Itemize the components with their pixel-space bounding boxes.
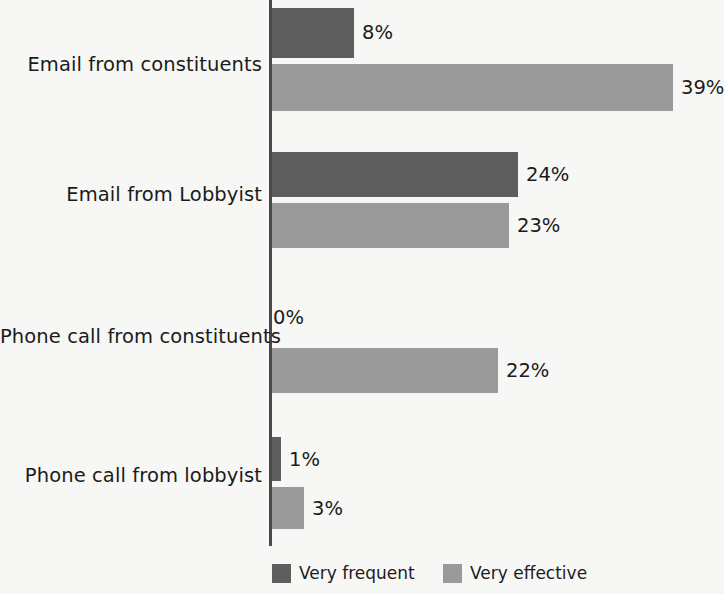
bar-value-label: 0%: [273, 308, 304, 328]
legend-swatch-icon: [272, 564, 291, 583]
bar-value-label: 22%: [506, 361, 549, 381]
category-label: Email from Lobbyist: [0, 184, 262, 206]
plot-area: Email from constituents 8% 39% Email fro…: [0, 0, 719, 552]
category-group: Email from constituents 8% 39%: [0, 0, 719, 130]
bar-value-label: 24%: [526, 165, 569, 185]
bar-very-effective[interactable]: [272, 203, 509, 248]
chart-legend: Very frequent Very effective: [0, 564, 719, 594]
category-label: Phone call from constituents: [0, 326, 262, 348]
bar-very-effective[interactable]: [272, 487, 304, 529]
bar-very-effective[interactable]: [272, 348, 498, 393]
bar-very-effective[interactable]: [272, 64, 673, 111]
bar-value-label: 8%: [362, 23, 393, 43]
category-group: Phone call from constituents 0% 22%: [0, 280, 719, 410]
bar-very-frequent[interactable]: [272, 8, 354, 58]
bar-value-label: 39%: [681, 78, 724, 98]
category-label: Phone call from lobbyist: [0, 465, 262, 487]
bar-value-label: 23%: [517, 216, 560, 236]
category-group: Phone call from lobbyist 1% 3%: [0, 425, 719, 550]
bar-very-frequent[interactable]: [272, 152, 518, 197]
category-group: Email from Lobbyist 24% 23%: [0, 140, 719, 270]
bar-very-frequent[interactable]: [272, 437, 281, 481]
bar-value-label: 1%: [289, 450, 320, 470]
category-label: Email from constituents: [0, 54, 262, 76]
legend-label: Very effective: [470, 564, 587, 583]
legend-item-very-frequent[interactable]: Very frequent: [272, 564, 415, 583]
bar-value-label: 3%: [312, 499, 343, 519]
legend-item-very-effective[interactable]: Very effective: [443, 564, 587, 583]
legend-swatch-icon: [443, 564, 462, 583]
legend-label: Very frequent: [299, 564, 415, 583]
